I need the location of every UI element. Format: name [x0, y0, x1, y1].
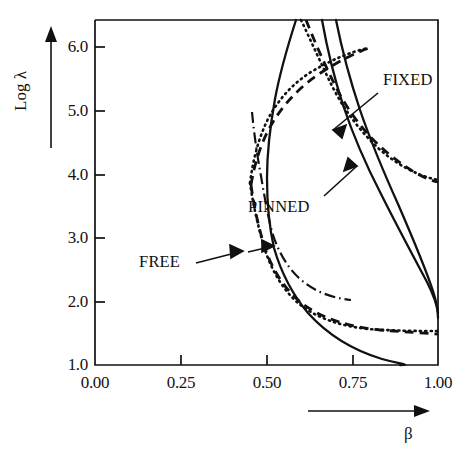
annotation-arrows: [196, 93, 378, 263]
y-tick-label: 1.0: [44, 355, 88, 375]
figure-root: Log λ 6.0 5.0 4.0 3.0 2.0 1.0 0.00 0.25 …: [0, 0, 468, 465]
x-axis-arrow-icon: [308, 404, 430, 418]
y-tick-label: 4.0: [44, 165, 88, 185]
free-solid-inner-right: [322, 20, 438, 313]
y-tick-label: 6.0: [44, 37, 88, 57]
series-fixed-dotted: [250, 20, 438, 331]
free-arrow: [196, 240, 274, 263]
x-tick-label: 0.75: [339, 373, 368, 393]
y-tick-label: 3.0: [44, 228, 88, 248]
x-tick-label: 0.00: [81, 373, 110, 393]
curve-label-free: FREE: [139, 252, 180, 272]
curve-label-pinned: PINNED: [248, 197, 310, 217]
y-axis-title-group: Log λ: [6, 36, 36, 146]
x-tick-label: 1.00: [424, 373, 453, 393]
y-axis-title: Log λ: [11, 71, 31, 111]
x-tick-label: 0.50: [253, 373, 282, 393]
curve-label-fixed: FIXED: [383, 70, 433, 90]
y-axis-ticks: [95, 47, 105, 302]
x-axis-ticks: [181, 355, 353, 365]
y-tick-label: 5.0: [44, 101, 88, 121]
x-tick-label: 0.25: [167, 373, 196, 393]
x-axis-title: β: [404, 424, 413, 444]
pinned-arrow: [324, 158, 357, 196]
y-tick-label: 2.0: [44, 292, 88, 312]
